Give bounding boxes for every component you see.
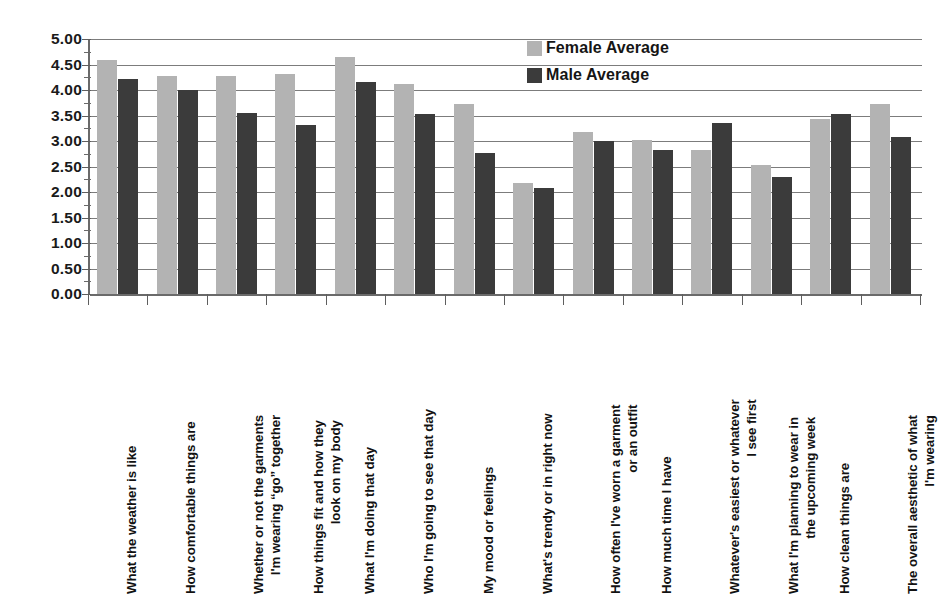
x-axis-label-line: What I'm doing that day	[362, 447, 379, 594]
x-axis-tick-group	[88, 294, 920, 306]
x-tick-mark	[504, 294, 505, 305]
x-axis-label-line: What's trendy or in right now	[540, 413, 557, 594]
x-axis-label: What I'm planning to wear inthe upcoming…	[786, 417, 819, 594]
bar-group	[387, 39, 446, 294]
bar-male-average	[296, 125, 316, 294]
x-axis-label-line: I'm wearing “go” together	[268, 415, 285, 594]
bar-female-average	[275, 74, 295, 294]
x-axis-label: How clean things are	[837, 463, 854, 594]
bar-male-average	[831, 114, 851, 294]
bar-female-average	[810, 119, 830, 294]
x-axis-label: How often I've worn a garmentor an outfi…	[608, 405, 641, 594]
y-tick-label: 5.00	[26, 31, 82, 47]
x-axis-label-line: Whatever's easiest or whatever	[727, 399, 744, 594]
x-tick-mark	[801, 294, 802, 305]
y-tick-label: 4.50	[26, 57, 82, 73]
bar-male-average	[594, 141, 614, 294]
bar-male-average	[475, 153, 495, 294]
x-tick-mark	[623, 294, 624, 305]
chart-legend: Female AverageMale Average	[527, 36, 787, 90]
x-axis-label: How comfortable things are	[183, 422, 200, 595]
bar-male-average	[237, 113, 257, 294]
x-axis-label-line: or an outfit	[624, 405, 641, 594]
plot-area	[88, 39, 922, 294]
bar-group	[803, 39, 862, 294]
x-tick-mark	[385, 294, 386, 305]
bar-female-average	[335, 57, 355, 294]
x-axis-label-line: How clean things are	[837, 463, 854, 594]
bar-male-average	[118, 79, 138, 294]
x-axis-label-line: What the weather is like	[124, 446, 141, 594]
x-axis-label-line: I'm wearing	[921, 415, 938, 594]
bar-female-average	[394, 84, 414, 294]
x-axis-label-line: How comfortable things are	[183, 422, 200, 595]
x-axis-label-group: What the weather is likeHow comfortable …	[88, 306, 920, 602]
bar-female-average	[632, 140, 652, 294]
bar-male-average	[772, 177, 792, 294]
legend-swatch-female	[527, 41, 542, 56]
y-tick-label: 2.50	[26, 159, 82, 175]
x-axis-label-line: Who I'm going to see that day	[421, 409, 438, 594]
legend-swatch-male	[527, 68, 542, 83]
bar-male-average	[178, 90, 198, 295]
bar-female-average	[97, 60, 117, 294]
x-axis-label: Whatever's easiest or whateverI see firs…	[727, 399, 760, 594]
x-axis-label-line: What I'm planning to wear in	[786, 417, 803, 594]
x-tick-mark	[147, 294, 148, 305]
x-axis-label-line: The overall aesthetic of what	[905, 415, 922, 594]
y-tick-label: 0.00	[26, 286, 82, 302]
x-axis-label: What's trendy or in right now	[540, 413, 557, 594]
x-tick-mark	[266, 294, 267, 305]
y-tick-label: 3.00	[26, 133, 82, 149]
x-axis-label: How much time I have	[659, 456, 676, 594]
bar-group	[209, 39, 268, 294]
x-axis-label-line: How things fit and how they	[311, 420, 328, 594]
bar-group	[268, 39, 327, 294]
x-tick-mark	[88, 294, 89, 305]
x-tick-mark	[207, 294, 208, 305]
x-tick-mark	[920, 294, 921, 305]
x-axis-label: Whether or not the garmentsI'm wearing “…	[251, 415, 284, 594]
y-tick-label: 2.00	[26, 184, 82, 200]
x-axis-label-line: How much time I have	[659, 456, 676, 594]
bar-female-average	[454, 104, 474, 294]
legend-label: Male Average	[546, 66, 649, 84]
bar-group	[149, 39, 208, 294]
x-axis-label-line: I see first	[743, 399, 760, 594]
y-tick-label: 3.50	[26, 108, 82, 124]
bar-female-average	[573, 132, 593, 294]
x-axis-label: The overall aesthetic of whatI'm wearing	[905, 415, 938, 594]
bar-male-average	[712, 123, 732, 294]
legend-item: Male Average	[527, 63, 787, 87]
x-axis-label-line: the upcoming week	[802, 417, 819, 594]
x-tick-mark	[682, 294, 683, 305]
bar-female-average	[157, 76, 177, 294]
bar-male-average	[415, 114, 435, 294]
y-tick-label: 1.50	[26, 210, 82, 226]
y-axis-label-group: 0.000.501.001.502.002.503.003.504.004.50…	[26, 31, 82, 295]
x-tick-mark	[861, 294, 862, 305]
bars-layer	[90, 39, 922, 294]
bar-female-average	[870, 104, 890, 294]
bar-male-average	[356, 82, 376, 294]
bar-male-average	[891, 137, 911, 294]
x-tick-mark	[742, 294, 743, 305]
x-axis-label: What the weather is like	[124, 446, 141, 594]
x-axis-label: How things fit and how theylook on my bo…	[311, 420, 344, 594]
x-tick-mark	[445, 294, 446, 305]
legend-item: Female Average	[527, 36, 787, 60]
y-tick-label: 4.00	[26, 82, 82, 98]
y-tick-label: 0.50	[26, 261, 82, 277]
x-tick-mark	[563, 294, 564, 305]
bar-female-average	[513, 183, 533, 294]
x-axis-label-line: Whether or not the garments	[251, 415, 268, 594]
x-axis-label: My mood or feelings	[481, 467, 498, 594]
bar-group	[447, 39, 506, 294]
bar-female-average	[691, 150, 711, 294]
bar-male-average	[534, 188, 554, 294]
bar-female-average	[751, 165, 771, 294]
legend-label: Female Average	[546, 39, 669, 57]
bar-group	[90, 39, 149, 294]
x-axis-label-line: How often I've worn a garment	[608, 405, 625, 594]
